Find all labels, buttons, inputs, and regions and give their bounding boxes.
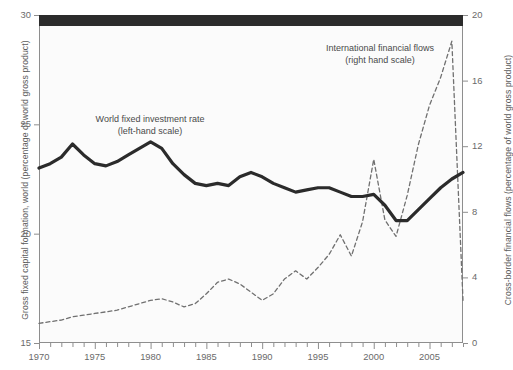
right-axis-title: Cross-border financial flows (percentage… [503,15,513,345]
x-tick-1990: 1990 [242,351,282,362]
x-tick-1975: 1975 [75,351,115,362]
y-tick-left-15: 15 [5,337,31,348]
x-tick-2005: 2005 [410,351,450,362]
y-tick-left-20: 20 [5,228,31,239]
y-tick-right-4: 4 [472,271,498,282]
annotation-world-fixed-investment-rate: World fixed investment rate (left-hand s… [70,113,230,137]
x-tick-1995: 1995 [298,351,338,362]
top-dark-band [39,15,463,26]
y-tick-left-25: 25 [5,118,31,129]
y-tick-right-0: 0 [472,337,498,348]
annotation-international-financial-flows: International financial flows (right han… [300,42,460,66]
left-axis-title: Gross fixed capital formation, world (pe… [20,15,30,345]
annotation-flows-line1: International financial flows [300,42,460,54]
y-tick-left-30: 30 [5,9,31,20]
x-tick-2000: 2000 [354,351,394,362]
x-tick-1985: 1985 [186,351,226,362]
y-tick-right-12: 12 [472,140,498,151]
y-tick-right-20: 20 [472,9,498,20]
annotation-investment-line1: World fixed investment rate [70,113,230,125]
y-tick-right-8: 8 [472,206,498,217]
annotation-investment-line2: (left-hand scale) [70,125,230,137]
x-tick-1980: 1980 [131,351,171,362]
x-tick-1970: 1970 [19,351,59,362]
annotation-flows-line2: (right hand scale) [300,54,460,66]
y-tick-right-16: 16 [472,75,498,86]
